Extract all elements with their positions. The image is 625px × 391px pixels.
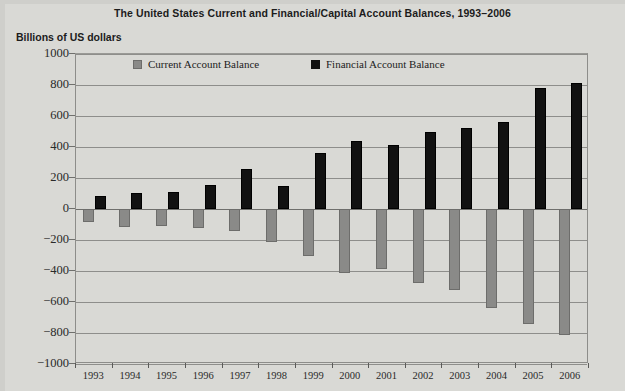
- y-axis-label: Billions of US dollars: [16, 31, 122, 43]
- page-edge-left: [0, 0, 5, 391]
- bar-current-1994: [119, 209, 130, 227]
- x-tick-label-1997: 1997: [229, 370, 250, 381]
- bar-financial-1994: [131, 193, 142, 209]
- y-tick-label--800: −800: [9, 325, 69, 340]
- x-tick-mark-end: [588, 363, 589, 368]
- bar-current-1996: [193, 209, 204, 228]
- gridline--600: [76, 302, 587, 303]
- legend-entry-current[interactable]: Current Account Balance: [133, 58, 259, 70]
- x-tick-mark-0: [75, 363, 76, 368]
- y-tick-label--200: −200: [9, 232, 69, 247]
- legend-swatch-financial-icon: [311, 60, 320, 69]
- bar-financial-2001: [388, 145, 399, 209]
- bar-current-1998: [266, 209, 277, 242]
- bar-financial-1998: [278, 186, 289, 209]
- legend-entry-financial[interactable]: Financial Account Balance: [311, 58, 445, 70]
- x-tick-label-1996: 1996: [193, 370, 214, 381]
- x-tick-mark-5: [258, 363, 259, 368]
- y-tick-label-800: 800: [9, 77, 69, 92]
- y-tick-label--1000: −1000: [9, 356, 69, 371]
- x-tick-label-1993: 1993: [83, 370, 104, 381]
- bar-financial-1997: [241, 169, 252, 209]
- gridline-400: [76, 147, 587, 148]
- bar-financial-2006: [571, 83, 582, 209]
- legend-label-financial: Financial Account Balance: [326, 58, 445, 70]
- bar-current-1999: [303, 209, 314, 256]
- y-tick-label-1000: 1000: [9, 46, 69, 61]
- legend-swatch-current-icon: [133, 60, 142, 69]
- x-tick-label-2004: 2004: [486, 370, 507, 381]
- x-tick-mark-2: [148, 363, 149, 368]
- x-tick-label-2005: 2005: [523, 370, 544, 381]
- y-tick-label--400: −400: [9, 263, 69, 278]
- x-tick-label-1999: 1999: [303, 370, 324, 381]
- bar-current-1993: [83, 209, 94, 222]
- bar-financial-2003: [461, 128, 472, 209]
- x-tick-label-1998: 1998: [266, 370, 287, 381]
- gridline-600: [76, 116, 587, 117]
- x-tick-mark-3: [185, 363, 186, 368]
- gridline--200: [76, 240, 587, 241]
- x-tick-mark-12: [515, 363, 516, 368]
- bar-current-2000: [339, 209, 350, 273]
- x-tick-mark-10: [441, 363, 442, 368]
- x-tick-mark-1: [112, 363, 113, 368]
- x-tick-mark-13: [551, 363, 552, 368]
- x-tick-label-2002: 2002: [413, 370, 434, 381]
- bar-financial-1996: [205, 185, 216, 209]
- x-tick-label-2006: 2006: [559, 370, 580, 381]
- bar-current-1997: [229, 209, 240, 231]
- bar-current-1995: [156, 209, 167, 226]
- gridline-1000: [76, 54, 587, 55]
- x-tick-mark-8: [368, 363, 369, 368]
- gridline-200: [76, 178, 587, 179]
- gridline-800: [76, 85, 587, 86]
- bar-financial-1993: [95, 196, 106, 209]
- y-tick-label-200: 200: [9, 170, 69, 185]
- bar-current-2002: [413, 209, 424, 283]
- y-tick-label-600: 600: [9, 108, 69, 123]
- bar-current-2001: [376, 209, 387, 269]
- x-tick-label-1995: 1995: [156, 370, 177, 381]
- bar-financial-2002: [425, 132, 436, 210]
- bar-financial-2000: [351, 141, 362, 209]
- x-tick-label-1994: 1994: [119, 370, 140, 381]
- bar-current-2003: [449, 209, 460, 290]
- bar-current-2004: [486, 209, 497, 308]
- x-tick-mark-4: [222, 363, 223, 368]
- page-edge-top: [0, 0, 625, 4]
- x-tick-label-2000: 2000: [339, 370, 360, 381]
- gridline--400: [76, 271, 587, 272]
- y-tick-label-0: 0: [9, 201, 69, 216]
- bar-financial-1999: [315, 153, 326, 209]
- x-tick-mark-7: [332, 363, 333, 368]
- chart-title: The United States Current and Financial/…: [0, 7, 625, 19]
- x-tick-mark-11: [478, 363, 479, 368]
- bar-financial-2005: [535, 88, 546, 209]
- y-tick-label-400: 400: [9, 139, 69, 154]
- bar-current-2006: [559, 209, 570, 335]
- plot-area: [75, 53, 588, 363]
- bar-financial-1995: [168, 192, 179, 209]
- gridline--800: [76, 333, 587, 334]
- bar-current-2005: [523, 209, 534, 324]
- x-tick-label-2003: 2003: [449, 370, 470, 381]
- gridline-0: [76, 209, 587, 210]
- x-tick-mark-6: [295, 363, 296, 368]
- chart-figure: The United States Current and Financial/…: [0, 0, 625, 391]
- x-tick-label-2001: 2001: [376, 370, 397, 381]
- x-tick-mark-9: [405, 363, 406, 368]
- legend-label-current: Current Account Balance: [148, 58, 259, 70]
- y-tick-label--600: −600: [9, 294, 69, 309]
- bar-financial-2004: [498, 122, 509, 209]
